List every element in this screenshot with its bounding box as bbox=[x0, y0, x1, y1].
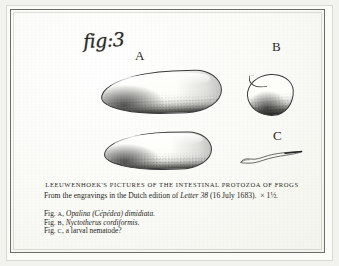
figure-a-opalina-lower bbox=[104, 131, 213, 171]
specimen-label-b: B bbox=[272, 39, 281, 55]
specimen-label-c: C bbox=[273, 128, 282, 144]
legend-description-c: a larval nematode bbox=[66, 226, 119, 235]
legend-terminator-b: . bbox=[138, 218, 140, 227]
legend-row-c: Fig. C, a larval nematode? bbox=[44, 227, 155, 236]
opalina-body-lower bbox=[104, 131, 213, 171]
legend-terminator-c: ? bbox=[118, 226, 121, 235]
opalina-body-upper bbox=[100, 69, 222, 116]
caption-block: LEEUWENHOEK'S PICTURES OF THE INTESTINAL… bbox=[44, 181, 302, 200]
handwritten-fig-label: fig:3 bbox=[82, 28, 124, 52]
specimen-label-a: A bbox=[135, 48, 145, 64]
figure-a-opalina-upper bbox=[100, 69, 222, 116]
illustration-plate: fig:3 A B C LEEUWENHOEK bbox=[0, 0, 339, 266]
nyctotherus-body bbox=[246, 72, 296, 117]
caption-source-prefix: From the engravings in the Dutch edition… bbox=[44, 191, 180, 200]
plate-frame-border: fig:3 A B C LEEUWENHOEK bbox=[10, 9, 325, 253]
figure-b-nyctotherus bbox=[246, 72, 296, 117]
legend-terminator-a: . bbox=[153, 209, 155, 218]
caption-source-suffix: (16 July 1683). bbox=[208, 191, 256, 200]
nematode-outline-icon bbox=[237, 150, 303, 168]
nyctotherus-peristome-notch bbox=[249, 74, 268, 88]
figure-c-larval-nematode bbox=[237, 150, 303, 168]
caption-source-line: From the engravings in the Dutch edition… bbox=[44, 191, 302, 200]
legend-fig-prefix-c: Fig. bbox=[44, 226, 56, 235]
legend-comma-c: , bbox=[62, 226, 64, 235]
caption-title: LEEUWENHOEK'S PICTURES OF THE INTESTINAL… bbox=[42, 181, 302, 188]
figure-legend-list: Fig. A, Opalina (Cépédea) dimidiata. Fig… bbox=[44, 210, 155, 236]
caption-magnification: × 1½. bbox=[260, 191, 278, 200]
caption-source-letter: Letter 38 bbox=[180, 191, 208, 200]
